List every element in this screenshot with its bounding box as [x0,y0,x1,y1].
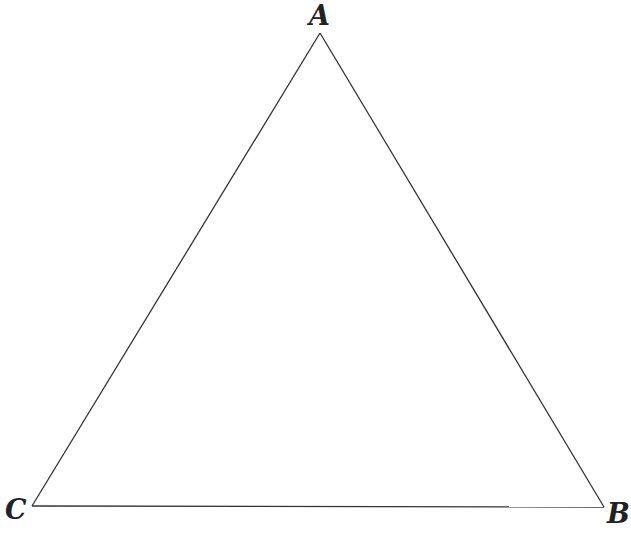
triangle-diagram [0,0,631,533]
vertex-label-c: C [5,496,27,523]
side-ab [320,33,604,507]
vertex-label-a: A [309,2,330,29]
side-cb [32,506,604,507]
vertex-label-b: B [607,500,630,527]
side-ac [32,33,320,506]
